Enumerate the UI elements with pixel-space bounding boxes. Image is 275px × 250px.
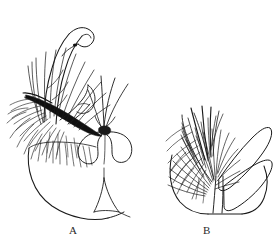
illustration-plate: A B bbox=[0, 0, 275, 250]
plate-svg bbox=[0, 0, 275, 250]
figure-label-b: B bbox=[203, 224, 211, 236]
paper-background bbox=[0, 0, 275, 250]
figure-label-a: A bbox=[69, 224, 77, 236]
cropped-caption-strip bbox=[0, 244, 275, 250]
